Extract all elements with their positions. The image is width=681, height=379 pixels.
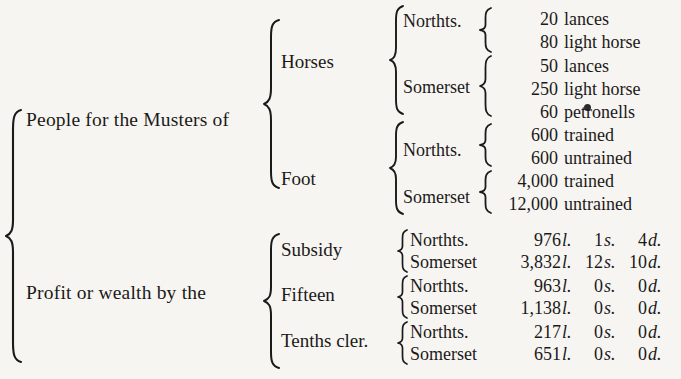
horses-northts-amount-0: 20 — [500, 10, 558, 28]
foot-somerset-amount-0: 4,000 — [488, 172, 558, 190]
subsidy-row-1-pence: 10 — [622, 253, 647, 271]
subsidy-row-0-shillings-mark: s. — [604, 231, 616, 249]
tenths-cler-row-0-pounds: 217 — [495, 323, 561, 341]
brace-tenths-cler-rows — [396, 320, 410, 366]
tenths-cler-row-0-shillings-mark: s. — [604, 323, 616, 341]
tenths-cler-row-1-pence: 0 — [622, 345, 647, 363]
subsidy-row-0-county: Northts. — [410, 231, 469, 249]
subsidy-row-0-shillings: 1 — [578, 231, 603, 249]
musters-category-foot: Foot — [281, 169, 316, 188]
profit-category-tenths-cler: Tenths cler. — [281, 331, 368, 350]
horses-county-northts: Northts. — [403, 12, 462, 30]
tenths-cler-row-0-pence: 0 — [622, 323, 647, 341]
fifteen-row-1-shillings: 0 — [578, 299, 603, 317]
horses-somerset-amount-0: 50 — [500, 57, 558, 75]
tenths-cler-row-0-county: Northts. — [410, 323, 469, 341]
fifteen-row-1-county: Somerset — [410, 299, 477, 317]
foot-county-northts: Northts. — [403, 141, 462, 159]
fifteen-row-1-pounds-mark: l. — [562, 299, 572, 317]
root-label-profit: Profit or wealth by the — [26, 283, 206, 303]
tenths-cler-row-0-shillings: 0 — [578, 323, 603, 341]
profit-category-fifteen: Fifteen — [281, 285, 335, 304]
ink-blot-petronells — [584, 104, 591, 111]
horses-somerset-amount-1: 250 — [500, 80, 558, 98]
brace-musters-categories — [262, 18, 282, 190]
subsidy-row-1-shillings-mark: s. — [604, 253, 616, 271]
horses-county-somerset: Somerset — [403, 78, 470, 96]
subsidy-row-1-county: Somerset — [410, 253, 477, 271]
tenths-cler-row-0-pence-mark: d. — [648, 323, 662, 341]
horses-somerset-kind-2: petronells — [564, 103, 635, 121]
brace-horses-somerset-rows — [478, 54, 494, 118]
horses-somerset-kind-0: lances — [564, 57, 609, 75]
foot-somerset-kind-0: trained — [564, 172, 614, 190]
fifteen-row-0-pence: 0 — [622, 277, 647, 295]
subsidy-row-0-pounds: 976 — [495, 231, 561, 249]
foot-northts-amount-1: 600 — [488, 149, 558, 167]
fifteen-row-0-pounds-mark: l. — [562, 277, 572, 295]
subsidy-row-1-shillings: 12 — [578, 253, 603, 271]
brace-subsidy-rows — [396, 228, 410, 274]
subsidy-row-0-pence: 4 — [622, 231, 647, 249]
fifteen-row-0-county: Northts. — [410, 277, 469, 295]
horses-somerset-amount-2: 60 — [500, 103, 558, 121]
tenths-cler-row-1-shillings-mark: s. — [604, 345, 616, 363]
fifteen-row-0-shillings: 0 — [578, 277, 603, 295]
foot-northts-kind-0: trained — [564, 126, 614, 144]
tenths-cler-row-0-pounds-mark: l. — [562, 323, 572, 341]
musters-category-horses: Horses — [281, 52, 334, 71]
foot-northts-amount-0: 600 — [488, 126, 558, 144]
tenths-cler-row-1-pounds-mark: l. — [562, 345, 572, 363]
profit-category-subsidy: Subsidy — [281, 240, 342, 259]
fifteen-row-1-pence: 0 — [622, 299, 647, 317]
horses-northts-kind-0: lances — [564, 10, 609, 28]
brace-root — [4, 108, 24, 364]
foot-northts-kind-1: untrained — [564, 149, 632, 167]
brace-horses-northts-rows — [478, 6, 494, 54]
horses-northts-kind-1: light horse — [564, 33, 641, 51]
tenths-cler-row-1-pence-mark: d. — [648, 345, 662, 363]
subsidy-row-1-pence-mark: d. — [648, 253, 662, 271]
foot-somerset-kind-1: untrained — [564, 195, 632, 213]
brace-profit-categories — [262, 232, 282, 370]
fifteen-row-1-pence-mark: d. — [648, 299, 662, 317]
fifteen-row-0-pounds: 963 — [495, 277, 561, 295]
subsidy-row-0-pounds-mark: l. — [562, 231, 572, 249]
fifteen-row-0-pence-mark: d. — [648, 277, 662, 295]
root-label-musters: People for the Musters of — [26, 110, 229, 130]
fifteen-row-0-shillings-mark: s. — [604, 277, 616, 295]
fifteen-row-1-pounds: 1,138 — [495, 299, 561, 317]
tenths-cler-row-1-county: Somerset — [410, 345, 477, 363]
horses-somerset-kind-1: light horse — [564, 80, 641, 98]
horses-northts-amount-1: 80 — [500, 33, 558, 51]
fifteen-row-1-shillings-mark: s. — [604, 299, 616, 317]
subsidy-row-1-pounds-mark: l. — [562, 253, 572, 271]
subsidy-row-0-pence-mark: d. — [648, 231, 662, 249]
tenths-cler-row-1-pounds: 651 — [495, 345, 561, 363]
tenths-cler-row-1-shillings: 0 — [578, 345, 603, 363]
foot-somerset-amount-1: 12,000 — [488, 195, 558, 213]
subsidy-row-1-pounds: 3,832 — [495, 253, 561, 271]
foot-county-somerset: Somerset — [403, 188, 470, 206]
document-page: People for the Musters of Profit or weal… — [0, 0, 681, 379]
brace-fifteen-rows — [396, 274, 410, 320]
